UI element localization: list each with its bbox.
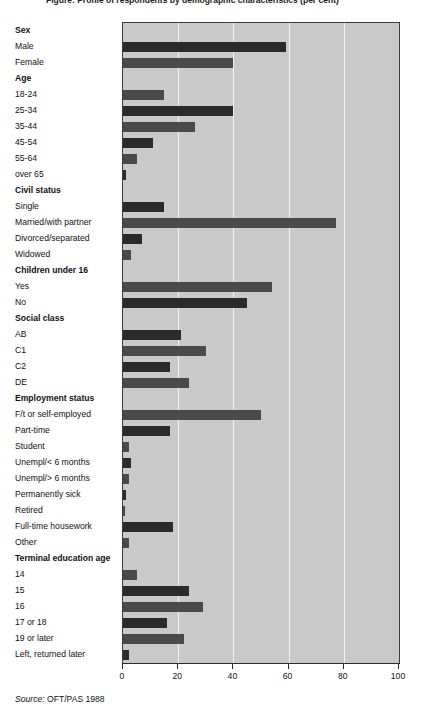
category-label: Full-time housework [15, 521, 92, 531]
category-label: Yes [15, 281, 29, 291]
category-label: AB [15, 329, 26, 339]
bar [123, 586, 189, 596]
category-label: Student [15, 441, 45, 451]
bar [123, 170, 126, 180]
plot-area [122, 22, 400, 664]
group-label: Civil status [15, 185, 61, 195]
category-label: Other [15, 537, 37, 547]
bar [123, 410, 261, 420]
bar [123, 58, 233, 68]
group-label: Children under 16 [15, 265, 88, 275]
axis-tick-label: 20 [172, 671, 182, 681]
bar [123, 506, 125, 516]
bar [123, 42, 286, 52]
gridline [344, 23, 345, 663]
category-label: No [15, 297, 26, 307]
category-label: 19 or later [15, 633, 54, 643]
bar [123, 602, 203, 612]
bar [123, 138, 153, 148]
bar [123, 570, 137, 580]
category-label: over 65 [15, 169, 44, 179]
bar [123, 458, 131, 468]
category-label: Part-time [15, 425, 50, 435]
bar [123, 330, 181, 340]
category-label: 18-24 [15, 89, 37, 99]
category-label: C2 [15, 361, 26, 371]
category-label: 15 [15, 585, 25, 595]
category-label: Retired [15, 505, 43, 515]
category-label: Unempl/< 6 months [15, 457, 90, 467]
bar [123, 282, 272, 292]
group-label: Employment status [15, 393, 94, 403]
group-label: Social class [15, 313, 64, 323]
axis-tick-label: 0 [120, 671, 125, 681]
axis-tick [398, 664, 399, 669]
category-label: Left, returned later [15, 649, 85, 659]
source-note: Source: OFT/PAS 1988 [15, 694, 105, 704]
gridline [178, 23, 179, 663]
group-label: Terminal education age [15, 553, 110, 563]
x-axis-line [122, 663, 400, 664]
category-label: F/t or self-employed [15, 409, 91, 419]
axis-tick [343, 664, 344, 669]
demographics-bar-chart: Figure: Profile of respondents by demogr… [0, 0, 421, 714]
source-value: OFT/PAS 1988 [45, 694, 105, 704]
category-label: Married/with partner [15, 217, 91, 227]
source-label: Source: [15, 694, 45, 704]
bar [123, 202, 164, 212]
bar [123, 522, 173, 532]
category-label: Permanently sick [15, 489, 80, 499]
category-label-column: SexMaleFemaleAge18-2425-3435-4445-5455-6… [0, 0, 122, 714]
bar [123, 218, 336, 228]
bar [123, 426, 170, 436]
bar [123, 650, 129, 660]
category-label: Unempl/> 6 months [15, 473, 90, 483]
category-label: 14 [15, 569, 25, 579]
bar [123, 378, 189, 388]
gridline [233, 23, 234, 663]
group-label: Sex [15, 25, 30, 35]
category-label: Female [15, 57, 44, 67]
bar [123, 362, 170, 372]
gridline [289, 23, 290, 663]
category-label: DE [15, 377, 27, 387]
axis-tick [177, 664, 178, 669]
axis-tick-label: 80 [338, 671, 348, 681]
bar [123, 106, 233, 116]
category-label: Male [15, 41, 34, 51]
bar [123, 538, 129, 548]
axis-tick-label: 100 [391, 671, 405, 681]
axis-tick [232, 664, 233, 669]
category-label: Widowed [15, 249, 50, 259]
group-label: Age [15, 73, 31, 83]
category-label: 25-34 [15, 105, 37, 115]
bar [123, 250, 131, 260]
bar [123, 122, 195, 132]
category-label: 55-64 [15, 153, 37, 163]
bar [123, 90, 164, 100]
axis-tick-label: 60 [283, 671, 293, 681]
bar [123, 298, 247, 308]
category-label: 35-44 [15, 121, 37, 131]
category-label: Divorced/separated [15, 233, 90, 243]
axis-tick-label: 40 [228, 671, 238, 681]
bar [123, 442, 129, 452]
category-label: 45-54 [15, 137, 37, 147]
bar [123, 618, 167, 628]
bar [123, 346, 206, 356]
category-label: 16 [15, 601, 25, 611]
axis-tick [288, 664, 289, 669]
bar [123, 154, 137, 164]
category-label: C1 [15, 345, 26, 355]
axis-tick [122, 664, 123, 669]
bar [123, 474, 129, 484]
bar [123, 234, 142, 244]
category-label: Single [15, 201, 39, 211]
category-label: 17 or 18 [15, 617, 47, 627]
bar [123, 490, 126, 500]
bar [123, 634, 184, 644]
